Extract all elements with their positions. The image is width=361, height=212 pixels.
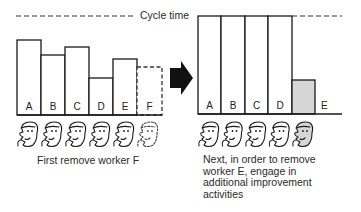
right-caption-line-3: additional improvement	[203, 177, 316, 189]
bar-label: E	[321, 100, 328, 111]
worker-face-icon	[18, 122, 38, 147]
worker-face-icon	[199, 122, 219, 147]
bar-label: B	[230, 100, 237, 111]
bar-label: D	[276, 100, 283, 111]
bar-label: E	[122, 101, 129, 112]
right-workers-row	[199, 122, 313, 147]
right-caption-line-1: Next, in order to remove	[203, 154, 316, 166]
right-arrow-icon	[170, 61, 193, 95]
bar-e: E	[113, 59, 137, 115]
bar-a: A	[17, 40, 41, 115]
right-caption: Next, in order to remove worker E, engag…	[203, 154, 316, 200]
left-caption: First remove worker F	[37, 155, 139, 167]
left-workers-row	[18, 122, 158, 147]
bar-c: C	[245, 16, 268, 114]
worker-face-icon	[269, 122, 289, 147]
bar-a: A	[198, 16, 221, 114]
line-balancing-diagram: ABCDEF ABCDE Cycle time First remove wor…	[0, 0, 361, 212]
worker-face-icon	[90, 122, 110, 147]
worker-face-icon	[66, 122, 86, 147]
cycle-time-label: Cycle time	[140, 9, 189, 21]
bar-e: E	[292, 80, 328, 114]
bar-b: B	[221, 16, 245, 114]
bar-label: A	[206, 100, 213, 111]
bar-label: F	[146, 101, 152, 112]
bar-label: B	[50, 101, 57, 112]
worker-face-icon	[42, 122, 62, 147]
bar-label: C	[253, 100, 260, 111]
right-caption-line-4: activities	[203, 189, 316, 201]
bar-c: C	[65, 47, 89, 115]
bar-label: C	[73, 101, 80, 112]
worker-face-icon	[138, 122, 158, 147]
worker-face-icon	[222, 122, 242, 147]
bar-d: D	[268, 16, 292, 114]
left-bar-chart: ABCDEF	[17, 40, 162, 115]
bar-label: A	[26, 101, 33, 112]
bar-b: B	[41, 55, 65, 115]
worker-face-icon	[293, 122, 313, 147]
bar-f: F	[137, 67, 162, 115]
worker-face-icon	[246, 122, 266, 147]
worker-face-icon	[114, 122, 134, 147]
right-bar-chart: ABCDE	[198, 16, 328, 114]
bar-d: D	[89, 78, 113, 115]
bar-label: D	[97, 101, 104, 112]
